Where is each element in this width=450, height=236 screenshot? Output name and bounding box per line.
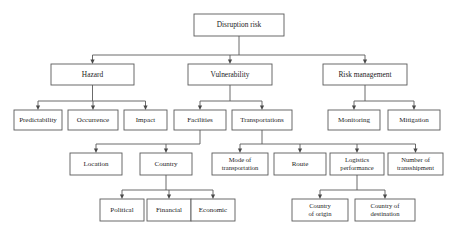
node-label-line: Hazard [82, 69, 104, 78]
node-vulnerability[interactable]: Vulnerability [188, 64, 272, 85]
node-label-logistics-performance: Logisticsperformance [340, 155, 373, 170]
connector-group-logistics-performance [318, 175, 387, 199]
arrow-head-number-of-transshipment [413, 149, 417, 153]
node-label-line: transshipment [397, 164, 434, 171]
node-monitoring[interactable]: Monitoring [328, 110, 380, 130]
connector-group-risk-management [352, 85, 416, 110]
node-label-mitigation: Mitigation [399, 116, 429, 124]
node-label-line: Vulnerability [211, 69, 250, 78]
node-label-line: Country [155, 160, 178, 168]
node-mode-of-transportation[interactable]: Mode oftransportation [212, 153, 268, 175]
node-label-line: Political [110, 206, 133, 214]
node-label-line: Mode of [229, 155, 252, 162]
connector-group-facilities [94, 130, 200, 153]
tree-diagram-canvas: Disruption riskHazardVulnerabilityRisk m… [0, 0, 450, 236]
node-label-location: Location [84, 160, 109, 168]
node-label-occurrence: Occurrence [77, 116, 109, 124]
node-label-transportations: Transportations [240, 116, 284, 124]
arrow-head-vulnerability [228, 60, 232, 64]
connector-group-transportations [238, 130, 418, 153]
node-mitigation[interactable]: Mitigation [388, 110, 440, 130]
node-label-risk-management: Risk management [338, 69, 392, 78]
node-label-predictability: Predictability [19, 116, 57, 124]
arrow-head-occurrence [91, 106, 95, 110]
node-occurrence[interactable]: Occurrence [68, 110, 118, 130]
node-label-line: performance [340, 164, 373, 171]
arrow-head-predictability [36, 106, 40, 110]
node-facilities[interactable]: Facilities [174, 110, 226, 130]
node-label-country: Country [155, 160, 178, 168]
node-country[interactable]: Country [140, 153, 192, 175]
arrow-head-country [164, 149, 168, 153]
node-label-vulnerability: Vulnerability [211, 69, 250, 78]
node-location[interactable]: Location [70, 153, 122, 175]
node-impact[interactable]: Impact [124, 110, 167, 130]
node-label-line: Country of [371, 201, 401, 208]
arrow-head-financial [167, 195, 171, 199]
node-label-line: Predictability [19, 116, 57, 124]
arrow-head-location [94, 149, 98, 153]
node-economic[interactable]: Economic [191, 199, 235, 221]
arrow-head-route [298, 149, 302, 153]
arrow-head-facilities [198, 106, 202, 110]
node-label-line: Transportations [240, 116, 284, 124]
node-label-monitoring: Monitoring [338, 116, 370, 124]
node-route[interactable]: Route [274, 153, 326, 175]
node-label-line: Financial [156, 206, 182, 214]
node-label-line: Impact [136, 116, 155, 124]
arrow-head-logistics-performance [355, 149, 359, 153]
node-logistics-performance[interactable]: Logisticsperformance [330, 153, 384, 175]
node-label-political: Political [110, 206, 133, 214]
node-predictability[interactable]: Predictability [14, 110, 62, 130]
node-risk-management[interactable]: Risk management [323, 64, 407, 85]
node-label-line: Monitoring [338, 116, 370, 124]
node-label-line: Route [292, 160, 309, 168]
node-label-facilities: Facilities [187, 116, 213, 124]
node-country-of-destination[interactable]: Country ofdestination [355, 199, 415, 221]
node-label-line: Economic [199, 206, 227, 214]
node-label-line: Facilities [187, 116, 213, 124]
arrow-head-country-of-destination [383, 195, 387, 199]
node-label-line: Number of [401, 155, 431, 162]
arrow-head-monitoring [352, 106, 356, 110]
node-label-country-of-destination: Country ofdestination [371, 201, 401, 216]
connector-group-vulnerability [198, 85, 264, 110]
arrow-head-hazard [90, 60, 94, 64]
connector-group-country [120, 175, 215, 199]
arrow-head-economic [211, 195, 215, 199]
node-label-financial: Financial [156, 206, 182, 214]
node-financial[interactable]: Financial [147, 199, 191, 221]
node-label-line: Disruption risk [217, 20, 262, 29]
node-label-hazard: Hazard [82, 69, 104, 78]
node-label-line: Mitigation [399, 116, 429, 124]
node-label-line: Risk management [338, 69, 392, 78]
node-label-line: Location [84, 160, 109, 168]
node-political[interactable]: Political [100, 199, 144, 221]
node-label-line: Country [309, 201, 331, 208]
node-label-number-of-transshipment: Number oftransshipment [397, 155, 434, 170]
node-number-of-transshipment[interactable]: Number oftransshipment [388, 153, 443, 175]
arrow-head-impact [143, 106, 147, 110]
arrow-head-political [120, 195, 124, 199]
node-label-impact: Impact [136, 116, 155, 124]
node-country-of-origin[interactable]: Countryof origin [292, 199, 348, 221]
node-label-line: transportation [222, 164, 259, 171]
node-label-route: Route [292, 160, 309, 168]
connector-group-disruption-risk [90, 36, 367, 64]
arrow-head-mode-of-transportation [238, 149, 242, 153]
node-label-disruption-risk: Disruption risk [217, 20, 262, 29]
arrow-head-risk-management [363, 60, 367, 64]
node-label-country-of-origin: Countryof origin [309, 201, 333, 216]
node-label-line: Occurrence [77, 116, 109, 124]
node-hazard[interactable]: Hazard [51, 64, 134, 85]
node-label-line: Logistics [345, 155, 370, 162]
node-label-line: of origin [309, 210, 333, 217]
disruption-risk-tree-diagram: Disruption riskHazardVulnerabilityRisk m… [0, 0, 450, 236]
arrow-head-mitigation [412, 106, 416, 110]
connector-group-hazard [36, 85, 148, 110]
node-label-line: destination [371, 210, 401, 217]
node-label-economic: Economic [199, 206, 227, 214]
arrow-head-country-of-origin [318, 195, 322, 199]
node-disruption-risk[interactable]: Disruption risk [194, 14, 284, 36]
node-transportations[interactable]: Transportations [232, 110, 292, 130]
